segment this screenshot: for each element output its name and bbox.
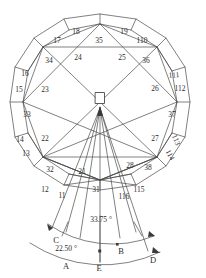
arc-arrowheads xyxy=(47,224,160,253)
center-square-marker xyxy=(96,93,105,104)
arc-tick-marks xyxy=(62,216,142,262)
outer-dimension-arc xyxy=(30,243,160,265)
inner-dimension-arc xyxy=(48,224,154,244)
diagram-canvas: 1112131415161718191101111121131141151162… xyxy=(0,0,206,278)
geometry-figure xyxy=(0,0,206,278)
ray-arrowhead xyxy=(97,106,103,116)
